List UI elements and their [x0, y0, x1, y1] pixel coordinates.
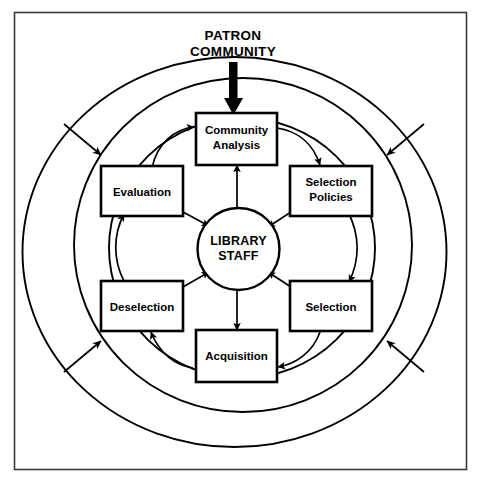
node-selection-policies[interactable]: Selection Policies [290, 166, 372, 216]
collection-development-cycle-diagram: PATRON COMMUNITY LIBRARY STAFF [0, 0, 479, 492]
node-selection-policies-label-line2: Policies [309, 191, 352, 203]
node-selection[interactable]: Selection [290, 281, 372, 331]
node-deselection[interactable]: Deselection [101, 281, 183, 331]
node-community-analysis-label-line2: Analysis [213, 139, 260, 151]
node-community-analysis-label-line1: Community [205, 124, 269, 136]
node-selection-label: Selection [305, 301, 356, 313]
node-acquisition-label: Acquisition [205, 350, 268, 362]
node-evaluation-label: Evaluation [113, 186, 171, 198]
library-staff-label-line1: LIBRARY [210, 234, 267, 248]
node-evaluation[interactable]: Evaluation [101, 166, 183, 216]
diagram-title-line1: PATRON [205, 28, 262, 43]
node-community-analysis[interactable]: Community Analysis [196, 113, 277, 165]
library-staff-label-line2: STAFF [218, 249, 259, 263]
diagram-title-line2: COMMUNITY [190, 44, 276, 59]
node-deselection-label: Deselection [110, 301, 175, 313]
node-selection-policies-label-line1: Selection [305, 176, 356, 188]
node-acquisition[interactable]: Acquisition [196, 330, 277, 382]
diagram-canvas: PATRON COMMUNITY LIBRARY STAFF [0, 0, 479, 492]
